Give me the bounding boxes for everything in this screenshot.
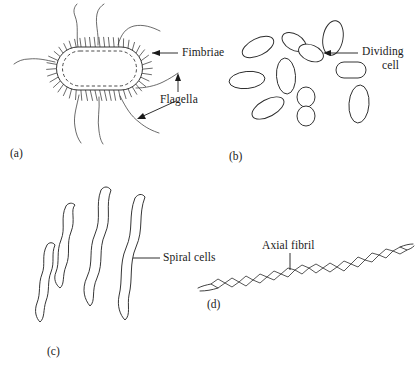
dividing-cell-half <box>297 106 315 126</box>
label-fimbriae: Fimbriae <box>182 46 224 60</box>
rod-cell <box>249 92 288 123</box>
figure-container: Fimbriae Flagella Dividing cell Spiral c… <box>0 0 416 370</box>
panel-letter-b: (b) <box>229 150 242 162</box>
panel-b-drawing <box>228 19 370 126</box>
spiral-cell <box>36 243 55 322</box>
rod-cell <box>348 84 371 123</box>
label-dividing-cell: Dividing cell <box>362 45 404 72</box>
fimbriae-leader-line <box>152 50 178 56</box>
label-axial-fibril: Axial fibril <box>262 239 315 253</box>
panel-c-drawing <box>36 187 160 322</box>
label-dividing-cell-line2: cell <box>362 59 404 73</box>
rod-cell <box>239 32 277 62</box>
rod-cell <box>275 57 296 94</box>
flagella-leader-line-upper <box>175 73 181 92</box>
bacterium-cell-wall <box>57 47 143 90</box>
panel-a-drawing <box>14 4 181 144</box>
spirochete-body <box>211 247 407 288</box>
panel-letter-c: (c) <box>47 345 60 357</box>
dividing-cell-half <box>297 87 315 107</box>
rod-cell <box>228 70 266 91</box>
label-dividing-cell-line1: Dividing <box>362 45 404 57</box>
rod-cell <box>320 19 346 57</box>
label-spiral-cells: Spiral cells <box>163 251 216 265</box>
spiral-cell <box>118 194 145 320</box>
spiral-cell <box>55 203 75 288</box>
label-flagella: Flagella <box>160 93 198 107</box>
spiral-cell <box>84 187 111 306</box>
panel-letter-a: (a) <box>10 147 23 159</box>
panel-letter-d: (d) <box>207 298 220 310</box>
